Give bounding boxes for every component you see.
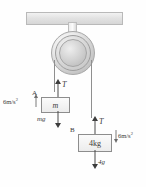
acceleration-label-a: 6m/s2 xyxy=(3,98,18,106)
acceleration-value-a: 6m/s xyxy=(3,98,16,105)
tension-label-a: T xyxy=(62,81,66,89)
block-b-mass-text: 4kg xyxy=(89,139,101,148)
weight-arrow-b xyxy=(91,150,98,169)
weight-arrow-a xyxy=(54,111,61,128)
weight-label-a: mg xyxy=(37,116,46,123)
tension-label-b: T xyxy=(99,118,103,126)
acceleration-label-b: 6m/s2 xyxy=(118,132,133,140)
tension-arrow-a xyxy=(54,79,61,97)
block-a-mass-text: m xyxy=(53,101,59,110)
weight-label-b: 4g xyxy=(98,159,105,166)
physics-diagram: A T m mg 6m/s2 B T 4kg 4g 6m/s2 xyxy=(0,0,146,187)
acceleration-value-b: 6m/s xyxy=(118,132,131,139)
acceleration-arrow-a xyxy=(33,94,38,107)
acceleration-exponent-a: 2 xyxy=(16,97,18,102)
tension-arrow-b xyxy=(91,116,98,135)
block-b-label: B xyxy=(70,127,75,134)
acceleration-exponent-b: 2 xyxy=(131,131,133,136)
pulley-hub xyxy=(59,39,87,67)
cord-right xyxy=(91,60,92,118)
